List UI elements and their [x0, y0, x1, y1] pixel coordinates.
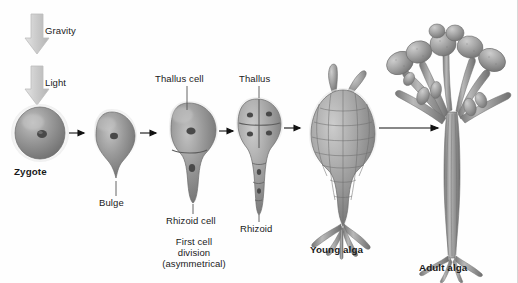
- figure-canvas: Gravity Light Zygote Bulge Thallus cell …: [0, 0, 518, 283]
- adult-alga-label: Adult alga: [419, 262, 467, 273]
- bulge-label: Bulge: [99, 197, 124, 208]
- rhizoid-label: Rhizoid: [240, 223, 272, 234]
- zygote-label: Zygote: [14, 166, 47, 177]
- thallus-cell-art: [169, 101, 218, 205]
- diagram-artwork: [0, 0, 518, 283]
- light-label: Light: [45, 77, 66, 88]
- adult-alga-art: [382, 24, 510, 283]
- first-division-caption-line1: First cell: [151, 236, 237, 247]
- progression-arrows: [69, 125, 438, 135]
- gravity-label: Gravity: [45, 25, 76, 36]
- first-division-caption-line3: (asymmetrical): [144, 258, 244, 269]
- leader-lines: [116, 86, 259, 222]
- first-division-caption-line2: division: [151, 247, 237, 258]
- young-alga-label: Young alga: [310, 244, 363, 255]
- thallus-label: Thallus: [239, 73, 270, 84]
- rhizoid-cell-label: Rhizoid cell: [166, 215, 216, 226]
- thallus-art: [236, 97, 283, 217]
- bulge-art: [94, 109, 137, 179]
- thallus-cell-label: Thallus cell: [155, 73, 204, 84]
- young-alga-art: [309, 64, 377, 259]
- zygote-art: [11, 104, 69, 162]
